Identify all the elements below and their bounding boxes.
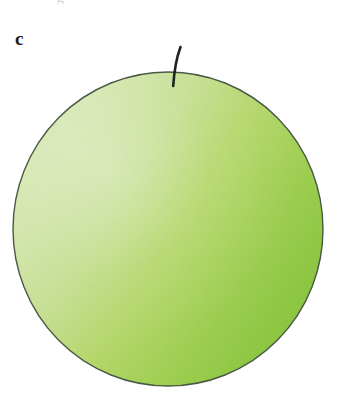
- apple-highlight: [14, 73, 322, 385]
- fruit-illustration: [0, 0, 338, 398]
- apple-body-group: [13, 72, 323, 386]
- figure-panel: g c: [0, 0, 338, 398]
